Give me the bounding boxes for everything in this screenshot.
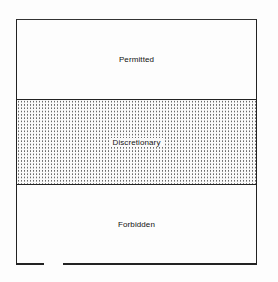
band-label-discretionary: Discretionary	[110, 138, 164, 147]
band-label-forbidden: Forbidden	[118, 220, 155, 229]
band-forbidden: Forbidden	[17, 183, 256, 265]
band-label-permitted: Permitted	[119, 55, 154, 64]
bottom-border-left	[16, 263, 44, 265]
band-permitted: Permitted	[17, 20, 256, 99]
diagram-frame: Permitted Discretionary Forbidden	[16, 19, 257, 264]
bottom-border-right	[63, 263, 257, 265]
band-discretionary: Discretionary	[17, 99, 256, 185]
